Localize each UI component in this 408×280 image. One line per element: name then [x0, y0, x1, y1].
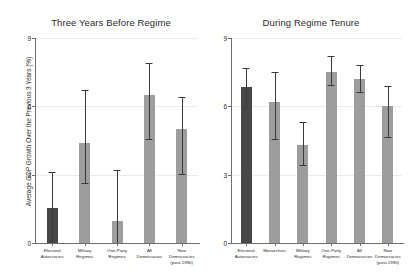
- ci-cap-lower: [328, 85, 335, 86]
- confidence-interval: [145, 63, 153, 140]
- x-tick: [388, 243, 389, 246]
- x-tick: [85, 243, 86, 246]
- panel-during-regime-tenure: During Regime Tenure 0369Electoral Autoc…: [204, 0, 408, 280]
- ci-cap-lower: [178, 174, 185, 175]
- ci-line: [182, 97, 183, 174]
- confidence-interval: [178, 97, 186, 174]
- ci-cap-upper: [178, 97, 185, 98]
- ci-line: [246, 68, 247, 109]
- gridline-6: [36, 106, 198, 107]
- figure-container: Three Years Before Regime Average GDP Gr…: [0, 0, 408, 280]
- panel-title-right: During Regime Tenure: [204, 17, 408, 28]
- x-tick: [117, 243, 118, 246]
- ci-line: [275, 72, 276, 140]
- confidence-interval: [384, 86, 392, 138]
- y-tick-label-3: 3: [27, 171, 31, 178]
- ci-line: [360, 65, 361, 92]
- confidence-interval: [242, 68, 250, 109]
- confidence-interval: [81, 90, 89, 183]
- plot-area-left: 0369Electoral AutocraciesMilitary Regime…: [36, 38, 198, 243]
- ci-cap-upper: [81, 90, 88, 91]
- plot-inner-left: 0369Electoral AutocraciesMilitary Regime…: [36, 38, 198, 243]
- y-tick-3: [32, 175, 35, 176]
- ci-cap-upper: [299, 122, 306, 123]
- ci-cap-upper: [384, 86, 391, 87]
- y-tick-label-3: 3: [223, 171, 227, 178]
- y-tick-label-0: 0: [27, 240, 31, 247]
- ci-line: [85, 90, 86, 183]
- ci-cap-upper: [356, 65, 363, 66]
- y-tick-9: [32, 38, 35, 39]
- ci-cap-lower: [384, 137, 391, 138]
- y-tick-0: [32, 243, 35, 244]
- y-axis-line-right: [231, 38, 232, 243]
- ci-cap-lower: [81, 183, 88, 184]
- plot-area-right: 0369Electoral AutocraciesMonarchiesMilit…: [232, 38, 402, 243]
- ci-cap-upper: [146, 63, 153, 64]
- gridline-6: [232, 106, 402, 107]
- y-tick-label-9: 9: [223, 35, 227, 42]
- x-tick: [303, 243, 304, 246]
- ci-cap-lower: [299, 165, 306, 166]
- confidence-interval: [271, 72, 279, 140]
- y-tick-label-6: 6: [223, 103, 227, 110]
- confidence-interval: [356, 65, 364, 92]
- ci-cap-upper: [49, 172, 56, 173]
- ci-line: [52, 172, 53, 243]
- x-tick: [360, 243, 361, 246]
- ci-cap-lower: [356, 92, 363, 93]
- ci-line: [388, 86, 389, 138]
- ci-cap-upper: [328, 56, 335, 57]
- ci-line: [117, 170, 118, 243]
- x-category-label: New Democracies (post-1990): [365, 248, 408, 265]
- ci-cap-upper: [114, 170, 121, 171]
- gridline-3: [232, 175, 402, 176]
- confidence-interval: [299, 122, 307, 165]
- y-tick-label-9: 9: [27, 35, 31, 42]
- x-tick: [52, 243, 53, 246]
- y-tick-label-0: 0: [223, 240, 227, 247]
- confidence-interval: [48, 172, 56, 243]
- x-tick: [331, 243, 332, 246]
- plot-inner-right: 0369Electoral AutocraciesMonarchiesMilit…: [232, 38, 402, 243]
- y-tick-6: [228, 106, 231, 107]
- gridline-9: [232, 38, 402, 39]
- x-tick: [246, 243, 247, 246]
- y-axis-label: Average GDP Growth Over the Previous 3 Y…: [25, 42, 32, 222]
- bar[interactable]: [354, 79, 365, 243]
- panel-title-left: Three Years Before Regime: [0, 17, 204, 28]
- gridline-9: [36, 38, 198, 39]
- x-axis-line-right: [231, 243, 404, 244]
- ci-cap-lower: [243, 108, 250, 109]
- x-category-label: New Democracies (post-1990): [159, 248, 205, 265]
- x-tick: [275, 243, 276, 246]
- y-tick-3: [228, 175, 231, 176]
- x-tick: [182, 243, 183, 246]
- panel-three-years-before-regime: Three Years Before Regime Average GDP Gr…: [0, 0, 204, 280]
- y-tick-6: [32, 106, 35, 107]
- y-axis-line-left: [35, 38, 36, 243]
- x-tick: [149, 243, 150, 246]
- ci-line: [331, 56, 332, 86]
- ci-line: [303, 122, 304, 165]
- y-tick-9: [228, 38, 231, 39]
- ci-cap-upper: [243, 68, 250, 69]
- ci-cap-lower: [271, 139, 278, 140]
- bar[interactable]: [241, 87, 252, 243]
- bar[interactable]: [326, 72, 337, 243]
- ci-cap-lower: [146, 139, 153, 140]
- confidence-interval: [113, 170, 121, 243]
- confidence-interval: [327, 56, 335, 86]
- ci-line: [149, 63, 150, 140]
- y-tick-0: [228, 243, 231, 244]
- ci-cap-upper: [271, 72, 278, 73]
- y-tick-label-6: 6: [27, 103, 31, 110]
